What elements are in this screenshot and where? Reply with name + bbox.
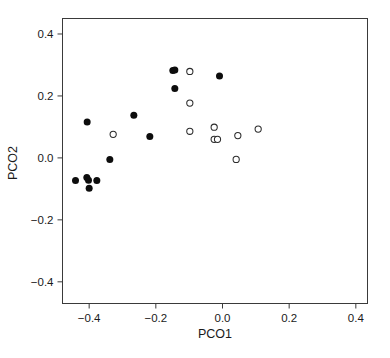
data-point-filled (130, 112, 137, 119)
data-point-filled (216, 73, 223, 80)
plot-canvas: −0.4−0.20.00.20.4 0.40.20.0−0.2−0.4 PCO1… (0, 0, 390, 358)
y-tick-label: 0.2 (38, 90, 54, 102)
y-tick-label: −0.2 (31, 214, 54, 226)
data-point-open (187, 68, 193, 74)
data-point-open (214, 136, 220, 142)
data-point-filled (93, 177, 100, 184)
x-tick-label: 0.4 (348, 312, 365, 324)
y-axis-ticks (58, 34, 63, 282)
data-point-filled (72, 177, 79, 184)
y-tick-label: 0.4 (38, 28, 55, 40)
x-axis-title: PCO1 (198, 327, 232, 341)
x-tick-label: 0.0 (215, 312, 231, 324)
x-tick-label: −0.4 (78, 312, 101, 324)
data-point-filled (106, 156, 113, 163)
data-point-open (233, 156, 239, 162)
data-point-filled (85, 177, 92, 184)
data-point-filled (171, 66, 178, 73)
y-tick-label: 0.0 (38, 152, 54, 164)
y-axis-title: PCO2 (6, 146, 20, 180)
data-point-filled (86, 185, 93, 192)
data-point-open (187, 100, 193, 106)
scatter-plot-figure: −0.4−0.20.00.20.4 0.40.20.0−0.2−0.4 PCO1… (0, 0, 390, 358)
data-point-open (187, 128, 193, 134)
data-point-open (235, 133, 241, 139)
y-tick-label: −0.4 (31, 276, 54, 288)
y-axis-tick-labels: 0.40.20.0−0.2−0.4 (31, 28, 54, 288)
data-point-filled (146, 133, 153, 140)
data-point-filled (171, 85, 178, 92)
series-filled-circles (72, 66, 223, 191)
x-tick-label: 0.2 (281, 312, 297, 324)
data-point-open (255, 126, 261, 132)
data-point-open (211, 124, 217, 130)
data-point-filled (84, 118, 91, 125)
x-tick-label: −0.2 (144, 312, 167, 324)
x-axis-ticks (89, 304, 356, 309)
x-axis-tick-labels: −0.4−0.20.00.20.4 (78, 312, 365, 324)
data-point-open (110, 131, 116, 137)
